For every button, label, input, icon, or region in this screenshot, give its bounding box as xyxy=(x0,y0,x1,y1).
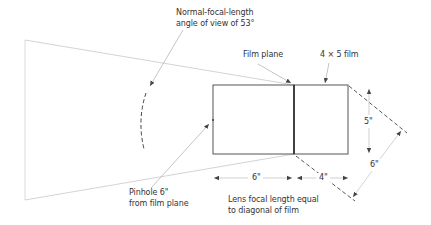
angle-arc xyxy=(141,93,146,149)
lens-focal-label: Lens focal length equal to diagonal of f… xyxy=(228,195,319,216)
film-plane-label: Film plane xyxy=(243,50,283,61)
leader-film-format xyxy=(325,63,329,83)
pinhole-label: Pinhole 6" from film plane xyxy=(129,188,188,209)
film-format-label: 4 × 5 film xyxy=(320,50,359,61)
normal-focal-label: Normal-focal-length angle of view of 53° xyxy=(176,8,254,29)
lens-focal-label-line1: Lens focal length equal xyxy=(228,195,319,206)
lens-focal-label-line2: to diagonal of film xyxy=(228,206,319,217)
dimension-label-pinhole-to-film: 6" xyxy=(250,173,263,182)
normal-focal-label-line1: Normal-focal-length xyxy=(176,8,254,19)
pinhole-label-line1: Pinhole 6" xyxy=(129,188,188,199)
leader-normal-focal xyxy=(150,30,183,86)
pinhole-camera-diagram xyxy=(0,0,431,225)
camera-body xyxy=(213,85,294,154)
pinhole-point xyxy=(212,119,214,121)
dimension-label-film-height: 5" xyxy=(362,117,375,126)
film-box xyxy=(294,85,348,154)
diagonal-dash-upper xyxy=(349,86,407,133)
dimension-label-film-width: 4" xyxy=(317,173,330,182)
dimension-label-film-diagonal: 6" xyxy=(368,160,381,169)
pinhole-label-line2: from film plane xyxy=(129,199,188,210)
leader-pinhole xyxy=(151,124,209,188)
normal-focal-label-line2: angle of view of 53° xyxy=(176,19,254,30)
